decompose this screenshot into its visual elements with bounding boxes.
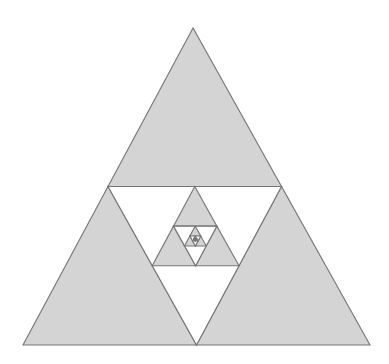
fractal-figure-container <box>0 0 389 364</box>
solid-triangle-level-4 <box>195 239 196 240</box>
sierpinski-triangle-svg <box>0 0 389 364</box>
